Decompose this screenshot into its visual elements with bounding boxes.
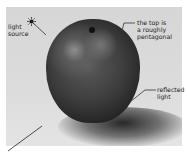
floor-leader-line xyxy=(8,126,42,151)
top-leader-line-diag xyxy=(121,23,124,35)
label-line: a roughly xyxy=(137,26,172,33)
label-line: reflected xyxy=(157,86,184,93)
label-line: pentagonal xyxy=(137,33,172,40)
light-ray-line xyxy=(30,20,46,35)
reflected-leader-line-diag xyxy=(130,90,145,102)
label-line: light xyxy=(157,93,184,100)
top-shape-annotation: the top is a roughly pentagonal xyxy=(137,19,172,40)
reflected-light-annotation: reflected light xyxy=(157,86,184,100)
label-line: the top is xyxy=(137,19,172,26)
